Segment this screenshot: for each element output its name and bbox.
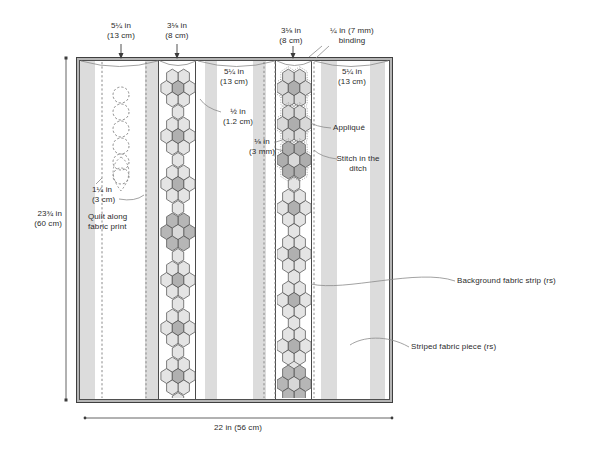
label-quilt-along: Quilt along fabric print — [88, 212, 148, 232]
label-section2-width: 5¼ in (13 cm) — [209, 67, 259, 87]
label-text: 23¾ in — [20, 209, 62, 219]
label-text: 5¼ in — [209, 67, 259, 77]
label-eighth-inch: ⅛ in (3 mm) — [242, 137, 282, 157]
label-text: 5¼ in — [96, 21, 146, 31]
label-text: Appliqué — [333, 123, 393, 133]
label-stitch-in-ditch: Stitch in the ditch — [330, 154, 386, 174]
applique-strip-1 — [158, 61, 196, 399]
label-strip1-width: 3⅛ in (8 cm) — [152, 21, 202, 41]
label-section1-width: 5¼ in (13 cm) — [96, 21, 146, 41]
label-text: binding — [317, 36, 387, 46]
label-text: 3⅛ in — [266, 26, 316, 36]
label-text: (13 cm) — [209, 77, 259, 87]
label-text: (13 cm) — [328, 77, 376, 87]
dimension-endpoint — [65, 57, 68, 60]
applique-strip-2 — [275, 61, 312, 399]
label-text: ¼ in (7 mm) — [317, 26, 387, 36]
label-quarter-inch: 1¼ in (3 cm) — [92, 185, 132, 205]
label-text: ½ in — [216, 107, 260, 117]
quilt-diagram: 5¼ in (13 cm) 3⅛ in (8 cm) 3⅛ in (8 cm) … — [0, 0, 592, 453]
label-binding: ¼ in (7 mm) binding — [317, 26, 387, 46]
label-text: 5¼ in — [328, 67, 376, 77]
label-text: (8 cm) — [266, 36, 316, 46]
label-text: 22 in (56 cm) — [188, 423, 288, 433]
dimension-endpoint — [84, 417, 87, 420]
label-text: (8 cm) — [152, 31, 202, 41]
label-text: 3⅛ in — [152, 21, 202, 31]
label-background-strip: Background fabric strip (rs) — [457, 276, 587, 286]
label-text: Stitch in the — [330, 154, 386, 164]
label-text: (1.2 cm) — [216, 117, 260, 127]
label-strip2-width: 3⅛ in (8 cm) — [266, 26, 316, 46]
label-half-inch: ½ in (1.2 cm) — [216, 107, 260, 127]
label-text: Quilt along — [88, 212, 148, 222]
label-text: ditch — [330, 164, 386, 174]
label-text: Background fabric strip (rs) — [457, 276, 587, 286]
label-text: fabric print — [88, 222, 148, 232]
label-striped-piece: Striped fabric piece (rs) — [411, 342, 531, 352]
label-text: (3 mm) — [242, 147, 282, 157]
label-quilt-height: 23¾ in (60 cm) — [20, 209, 62, 229]
label-text: 1¼ in — [92, 185, 132, 195]
label-applique: Appliqué — [333, 123, 393, 133]
label-section3-width: 5¼ in (13 cm) — [328, 67, 376, 87]
label-text: Striped fabric piece (rs) — [411, 342, 531, 352]
dimension-endpoint — [65, 399, 68, 402]
striped-section-3 — [312, 61, 387, 399]
label-text: ⅛ in — [242, 137, 282, 147]
label-text: (3 cm) — [92, 195, 132, 205]
label-text: (60 cm) — [20, 219, 62, 229]
label-quilt-width: 22 in (56 cm) — [188, 423, 288, 433]
binding-leader — [309, 46, 322, 57]
dimension-endpoint — [391, 417, 394, 420]
label-text: (13 cm) — [96, 31, 146, 41]
